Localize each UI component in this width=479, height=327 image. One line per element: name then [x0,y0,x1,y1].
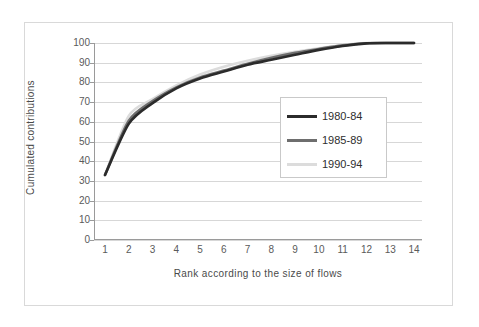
legend-item-1990-94: 1990-94 [287,155,383,173]
y-tick-label: 80 [64,77,90,87]
y-tick-label: 50 [64,137,90,147]
x-tick-label: 14 [408,244,419,256]
x-axis-title: Rank according to the size of flows [94,268,422,279]
y-tick-label: 10 [64,215,90,225]
legend-label: 1990-94 [322,159,362,170]
y-tick-label: 40 [64,156,90,166]
y-tick-label: 70 [64,97,90,107]
x-tick-label: 6 [221,244,227,256]
x-axis-ticks: 1234567891011121314 [94,244,422,258]
y-axis-title: Cumulated contributions [25,63,36,213]
y-tick-mark [90,122,94,123]
y-tick-label: 100 [64,38,90,48]
y-tick-mark [90,102,94,103]
legend-label: 1985-89 [322,135,362,146]
legend-swatch-icon [287,139,317,142]
y-tick-label: 60 [64,117,90,127]
y-axis-ticks: 0102030405060708090100 [62,43,90,240]
x-tick-label: 2 [126,244,132,256]
legend-swatch-icon [287,163,317,166]
x-tick-label: 3 [150,244,156,256]
y-tick-mark [90,43,94,44]
y-tick-mark [90,142,94,143]
legend-swatch-icon [287,115,317,118]
x-tick-label: 12 [361,244,372,256]
chart-figure: 0102030405060708090100 12345678910111213… [0,0,479,327]
y-tick-mark [90,220,94,221]
x-tick-label: 4 [174,244,180,256]
chart-legend: 1980-841985-891990-94 [280,97,387,178]
legend-item-1985-89: 1985-89 [287,131,383,149]
y-tick-label: 0 [64,235,90,245]
x-tick-label: 9 [292,244,298,256]
y-tick-label: 90 [64,58,90,68]
y-tick-mark [90,181,94,182]
y-tick-mark [90,161,94,162]
y-tick-label: 20 [64,196,90,206]
x-tick-label: 7 [245,244,251,256]
gridline [94,240,422,241]
x-tick-label: 8 [269,244,275,256]
x-tick-label: 5 [197,244,203,256]
x-tick-label: 11 [337,244,347,256]
x-tick-label: 1 [102,244,108,256]
y-tick-mark [90,63,94,64]
legend-item-1980-84: 1980-84 [287,107,383,125]
legend-label: 1980-84 [322,111,362,122]
y-tick-mark [90,240,94,241]
y-tick-mark [90,201,94,202]
y-tick-mark [90,82,94,83]
x-tick-label: 13 [385,244,396,256]
x-tick-label: 10 [313,244,324,256]
y-tick-label: 30 [64,176,90,186]
